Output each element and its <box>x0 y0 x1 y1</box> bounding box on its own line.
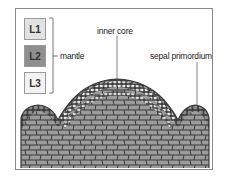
inner-core-label: inner core <box>97 26 133 36</box>
mantle-bracket <box>49 18 58 93</box>
sepal-primordium-label: sepal primordium <box>150 51 212 61</box>
mantle-label: mantle <box>60 51 84 61</box>
meristem-tissue <box>15 75 215 170</box>
